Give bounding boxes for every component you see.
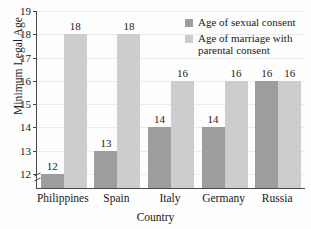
bar-value-label: 14 xyxy=(154,113,165,125)
x-axis-category-label: Spain xyxy=(103,192,129,204)
bar xyxy=(117,34,140,188)
bar-value-label: 18 xyxy=(70,20,81,32)
x-axis-category-label: Italy xyxy=(159,192,180,204)
y-tick-label: 15 xyxy=(20,98,31,110)
y-tick-label: 14 xyxy=(20,121,31,133)
x-axis-category-label: Philippines xyxy=(37,192,89,204)
y-tick-label: 17 xyxy=(20,52,31,64)
bar-value-label: 16 xyxy=(261,67,272,79)
legend-item: Age of marriage with parental consent xyxy=(185,32,309,57)
bar xyxy=(171,81,194,188)
legend-swatch-icon xyxy=(185,35,193,43)
bar-value-label: 12 xyxy=(47,160,58,172)
legend-label: Age of marriage with parental consent xyxy=(198,32,309,57)
y-tick-label: 16 xyxy=(20,75,31,87)
bar-value-label: 13 xyxy=(100,137,111,149)
y-tick-label: 18 xyxy=(20,28,31,40)
bar xyxy=(64,34,87,188)
bar xyxy=(278,81,301,188)
y-tick-label: 19 xyxy=(20,5,31,17)
bar xyxy=(225,81,248,188)
bar xyxy=(202,127,225,188)
bar-chart: Minimum Legal Age Country 12131415161718… xyxy=(0,0,311,229)
bar-value-label: 14 xyxy=(208,113,219,125)
bar-value-label: 16 xyxy=(231,67,242,79)
bar xyxy=(94,151,117,188)
bar-value-label: 16 xyxy=(177,67,188,79)
bar xyxy=(148,127,171,188)
y-tick-label: 13 xyxy=(20,145,31,157)
bar-value-label: 16 xyxy=(284,67,295,79)
bar xyxy=(255,81,278,188)
x-axis-title: Country xyxy=(0,211,311,223)
y-tick-label: 12 xyxy=(20,168,31,180)
legend-label: Age of sexual consent xyxy=(198,16,295,29)
y-axis-title: Minimum Legal Age xyxy=(12,0,24,136)
legend-item: Age of sexual consent xyxy=(185,16,309,29)
x-axis-category-label: Germany xyxy=(202,192,245,204)
bar xyxy=(41,174,64,188)
chart-legend: Age of sexual consentAge of marriage wit… xyxy=(185,16,309,60)
x-axis-category-label: Russia xyxy=(262,192,293,204)
legend-swatch-icon xyxy=(185,19,193,27)
bar-value-label: 18 xyxy=(123,20,134,32)
